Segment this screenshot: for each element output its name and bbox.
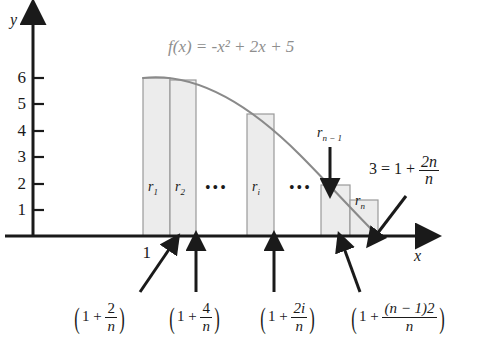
bottom-formula-2: (1 + 4n) bbox=[167, 300, 222, 335]
bar-group bbox=[143, 78, 378, 236]
formula-4-body: 1 + (n − 1)2n bbox=[359, 300, 437, 335]
x-tick-1: 1 bbox=[137, 244, 151, 261]
paren-open-2: ( bbox=[169, 301, 175, 335]
formula-1-lead: 1 + bbox=[82, 308, 105, 324]
formula-1-numerator: 2 bbox=[105, 300, 117, 318]
formula-4-lead: 1 + bbox=[359, 308, 382, 324]
bar-label-r-1-sub: 1 bbox=[153, 187, 158, 197]
y-tick-3: 3 bbox=[12, 148, 26, 165]
bottom-formula-4: (1 + (n − 1)2n) bbox=[349, 300, 447, 335]
formula-2-lead: 1 + bbox=[177, 308, 200, 324]
bar-label-r-i: ri bbox=[252, 180, 260, 197]
formula-arrow-group bbox=[140, 248, 360, 292]
figure-canvas: y x f(x) = -x² + 2x + 5 6 5 4 3 2 1 1 r1… bbox=[0, 0, 477, 354]
paren-close-1: ) bbox=[119, 301, 125, 335]
ellipsis-1: ••• bbox=[205, 180, 228, 196]
formula-2-fraction: 4n bbox=[200, 300, 212, 335]
right-eq-denominator: n bbox=[419, 171, 439, 187]
bottom-formula-3: (1 + 2in) bbox=[258, 300, 317, 335]
paren-close-3: ) bbox=[309, 301, 315, 335]
callout-label-rn-minus-1: rn − 1 bbox=[317, 126, 342, 143]
right-endpoint-equation: 3 = 1 + 2nn bbox=[369, 154, 439, 187]
bar-r-1 bbox=[143, 78, 170, 236]
bar-r-2 bbox=[170, 80, 196, 236]
formula-3-body: 1 + 2in bbox=[268, 300, 307, 335]
formula-3-denominator: n bbox=[291, 318, 307, 335]
bar-label-r-n-sub: n bbox=[360, 201, 365, 211]
y-tick-1: 1 bbox=[12, 201, 26, 218]
formula-arrow-4 bbox=[344, 248, 360, 292]
formula-2-denominator: n bbox=[200, 318, 212, 335]
formula-1-denominator: n bbox=[105, 318, 117, 335]
formula-3-lead: 1 + bbox=[268, 308, 291, 324]
formula-3-fraction: 2in bbox=[291, 300, 307, 335]
formula-4-denominator: n bbox=[382, 318, 436, 335]
paren-open-1: ( bbox=[74, 301, 80, 335]
bar-label-r-n: rn bbox=[355, 194, 365, 211]
bar-label-r-2: r2 bbox=[175, 180, 185, 197]
bar-r-i bbox=[247, 114, 274, 236]
formula-4-numerator: (n − 1)2 bbox=[382, 300, 436, 318]
callout-arrow-right-endpoint bbox=[377, 196, 406, 234]
callout-rn-sub: n − 1 bbox=[322, 133, 342, 143]
y-tick-5: 5 bbox=[12, 95, 26, 112]
bottom-formula-1: (1 + 2n) bbox=[72, 300, 127, 335]
y-axis-ticks bbox=[33, 78, 44, 210]
y-tick-4: 4 bbox=[12, 122, 26, 139]
formula-4-fraction: (n − 1)2n bbox=[382, 300, 436, 335]
bar-label-r-1: r1 bbox=[148, 180, 158, 197]
y-tick-6: 6 bbox=[12, 69, 26, 86]
bar-label-r-i-sub: i bbox=[257, 187, 260, 197]
paren-close-4: ) bbox=[439, 301, 445, 335]
right-eq-numerator: 2n bbox=[419, 154, 439, 171]
paren-open-3: ( bbox=[260, 301, 266, 335]
formula-2-numerator: 4 bbox=[200, 300, 212, 318]
paren-open-4: ( bbox=[351, 301, 357, 335]
y-tick-2: 2 bbox=[12, 175, 26, 192]
x-axis-label: x bbox=[414, 248, 421, 264]
y-axis-label: y bbox=[10, 12, 17, 28]
formula-3-numerator: 2i bbox=[291, 300, 307, 318]
bar-label-r-2-sub: 2 bbox=[180, 187, 185, 197]
paren-close-2: ) bbox=[214, 301, 220, 335]
formula-1-fraction: 2n bbox=[105, 300, 117, 335]
formula-1-body: 1 + 2n bbox=[82, 300, 117, 335]
ellipsis-2: ••• bbox=[289, 180, 312, 196]
function-label: f(x) = -x² + 2x + 5 bbox=[168, 38, 294, 55]
right-eq-lhs: 3 = 1 + bbox=[369, 160, 419, 177]
right-eq-fraction: 2nn bbox=[419, 154, 439, 187]
formula-2-body: 1 + 4n bbox=[177, 300, 212, 335]
